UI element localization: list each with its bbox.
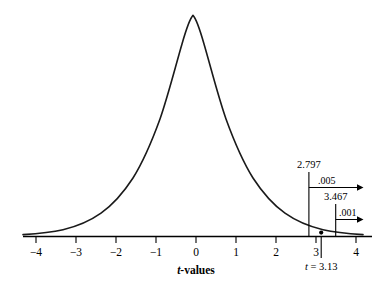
x-axis-title-rest: -values <box>180 264 215 276</box>
x-tick-label-minus3: −3 <box>70 246 82 258</box>
x-tick-label-0: 0 <box>193 246 199 258</box>
x-axis-title: t-values <box>177 264 215 276</box>
x-tick-label-1: 1 <box>233 246 239 258</box>
x-tick-label-3: 3 <box>313 246 319 258</box>
x-tick-label-2: 2 <box>273 246 279 258</box>
x-tick-label-minus4: −4 <box>30 246 42 258</box>
x-tick-label-minus1: −1 <box>150 246 162 258</box>
observed-t-label: t = 3.13 <box>305 261 337 272</box>
arrow-head <box>357 216 364 222</box>
t-distribution-figure: −4 −3 −2 −1 0 1 2 3 4 t-values 2.797 .00… <box>0 0 388 286</box>
observed-t-label-rest: = 3.13 <box>308 261 338 272</box>
chart-canvas: −4 −3 −2 −1 0 1 2 3 4 t-values 2.797 .00… <box>0 0 388 286</box>
t-distribution-curve <box>23 15 363 234</box>
observed-t-marker-dot <box>319 231 323 235</box>
critical-label-3467: 3.467 <box>324 191 348 202</box>
x-tick-label-minus2: −2 <box>110 246 122 258</box>
critical-label-2797: 2.797 <box>297 159 321 170</box>
tail-area-label-005: .005 <box>318 175 336 186</box>
x-axis-ticks <box>36 237 356 244</box>
arrow-head <box>357 184 364 190</box>
x-tick-label-4: 4 <box>353 246 359 258</box>
tail-area-label-001: .001 <box>339 207 357 218</box>
